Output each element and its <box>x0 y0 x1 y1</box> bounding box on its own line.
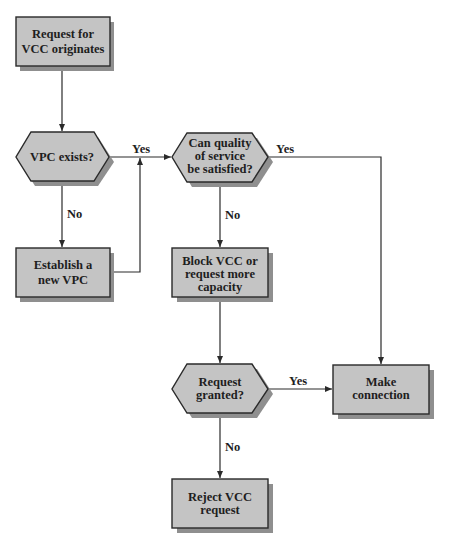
svg-text:be satisfied?: be satisfied? <box>187 162 253 176</box>
svg-text:Establish a: Establish a <box>34 258 93 272</box>
svg-text:Can quality: Can quality <box>189 136 253 150</box>
node-make-connection: Make connection <box>333 365 434 419</box>
node-vpc-exists-decision: VPC exists? <box>16 132 114 186</box>
svg-text:of service: of service <box>195 149 246 163</box>
svg-text:connection: connection <box>352 388 410 402</box>
node-establish-vpc: Establish a new VPC <box>16 248 114 302</box>
svg-text:Request: Request <box>198 375 242 389</box>
svg-text:Block VCC or: Block VCC or <box>182 254 258 268</box>
svg-text:request more: request more <box>185 267 255 281</box>
label-qos-yes: Yes <box>276 142 294 156</box>
label-granted-yes: Yes <box>289 374 307 388</box>
svg-text:granted?: granted? <box>196 388 244 402</box>
svg-text:Make: Make <box>366 375 397 389</box>
node-reject-vcc: Reject VCC request <box>172 479 273 533</box>
svg-text:capacity: capacity <box>198 280 243 294</box>
svg-text:Reject VCC: Reject VCC <box>188 490 252 504</box>
label-vpc-exists-no: No <box>67 207 82 221</box>
svg-text:VPC exists?: VPC exists? <box>30 150 94 164</box>
node-request-granted-decision: Request granted? <box>172 364 273 418</box>
label-vpc-exists-yes: Yes <box>132 142 150 156</box>
svg-text:new VPC: new VPC <box>38 273 88 287</box>
svg-text:Request for: Request for <box>32 27 95 41</box>
flowchart-canvas: Yes No Yes No Yes No Request for VCC ori… <box>0 0 449 543</box>
label-granted-no: No <box>225 440 240 454</box>
node-request-originates: Request for VCC originates <box>16 17 114 71</box>
node-block-vcc: Block VCC or request more capacity <box>172 248 273 302</box>
node-qos-decision: Can quality of service be satisfied? <box>172 133 273 187</box>
edge-qos-yes-to-make-connection <box>268 157 381 364</box>
label-qos-no: No <box>225 208 240 222</box>
svg-text:VCC originates: VCC originates <box>22 42 105 56</box>
edge-establish-to-qos-loop <box>110 158 140 272</box>
svg-text:request: request <box>200 503 240 517</box>
